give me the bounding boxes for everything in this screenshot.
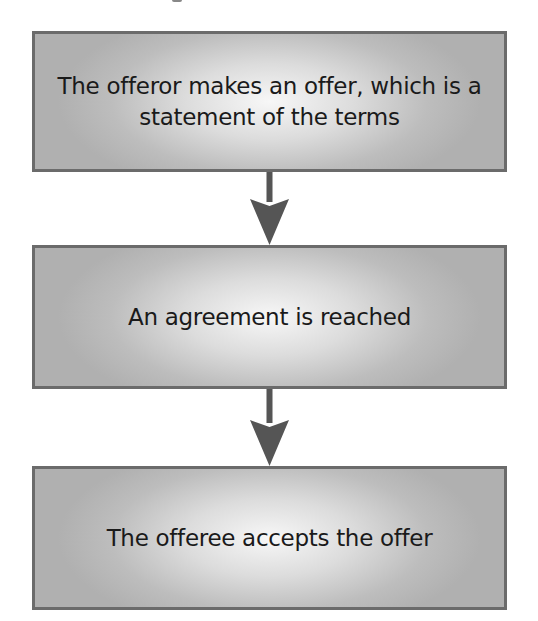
cropped-top-fragment (172, 0, 182, 2)
step-label: The offeree accepts the offer (87, 523, 453, 554)
step-label: The offeror makes an offer, which is a s… (35, 71, 504, 133)
arrow-down-icon (250, 389, 290, 466)
step-label: An agreement is reached (108, 302, 431, 333)
flow-step-acceptance: The offeree accepts the offer (32, 466, 507, 610)
flow-step-agreement: An agreement is reached (32, 245, 507, 389)
arrow-down-icon (250, 172, 290, 245)
flow-step-offer: The offeror makes an offer, which is a s… (32, 31, 507, 172)
